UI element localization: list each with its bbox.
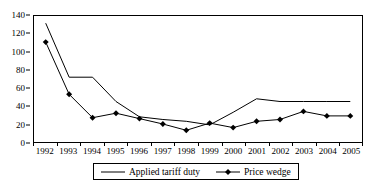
x-tick-label: 1997 [154,146,172,157]
y-tick-mark [26,106,30,107]
y-tick-mark [26,33,30,34]
data-point-marker [113,110,119,116]
y-tick-mark [26,69,30,70]
data-point-marker [183,127,189,133]
y-tick-label: 100 [12,47,26,56]
y-tick-label: 120 [12,29,26,38]
x-tick-mark [339,142,340,146]
x-tick-mark [80,142,81,146]
y-tick-mark [26,15,30,16]
x-tick-label: 2003 [295,146,313,157]
x-tick-mark [151,142,152,146]
x-tick-mark [362,142,363,146]
x-tick-mark [198,142,199,146]
y-tick-label: 140 [12,11,26,20]
y-tick-mark [26,143,30,144]
y-tick-label: 80 [16,65,25,74]
data-point-marker [230,125,236,131]
x-tick-label: 2004 [319,146,337,157]
x-tick-mark [174,142,175,146]
x-tick-label: 2002 [272,146,290,157]
data-point-marker [160,121,166,127]
y-tick-mark [26,124,30,125]
x-tick-label: 1992 [36,146,54,157]
data-point-marker [136,116,142,122]
y-tick-label: 0 [21,139,26,148]
y-tick-mark [26,51,30,52]
y-tick-label: 60 [16,84,25,93]
legend-label: Price wedge [244,167,291,177]
x-tick-label: 2005 [342,146,360,157]
x-tick-label: 1993 [59,146,77,157]
x-tick-label: 2001 [248,146,266,157]
x-tick-label: 1994 [83,146,101,157]
legend-line-icon [101,167,125,177]
y-tick-label: 20 [16,120,25,129]
x-tick-mark [57,142,58,146]
data-point-marker [207,120,213,126]
line-chart-figure: 020406080100120140 199219931994199519961… [0,0,372,185]
x-tick-label: 1995 [107,146,125,157]
x-tick-mark [245,142,246,146]
data-point-marker [254,118,260,124]
legend-label: Applied tariff duty [129,167,200,177]
x-axis: 1992199319941995199619971998199920002001… [33,146,363,160]
data-point-marker [324,113,330,119]
x-tick-mark [127,142,128,146]
x-tick-label: 1996 [130,146,148,157]
x-tick-mark [292,142,293,146]
y-tick-mark [26,88,30,89]
data-point-marker [43,39,49,45]
x-tick-label: 1998 [177,146,195,157]
x-tick-mark [104,142,105,146]
y-tick-label: 40 [16,102,25,111]
legend-line-diamond-icon [216,167,240,177]
x-tick-label: 2000 [224,146,242,157]
plot-area [33,15,363,143]
x-tick-label: 1999 [201,146,219,157]
data-point-marker [300,108,306,114]
chart-canvas [34,16,362,142]
data-point-marker [277,117,283,123]
legend-entry: Price wedge [216,167,291,177]
data-point-marker [347,113,353,119]
legend-entry: Applied tariff duty [101,167,200,177]
x-tick-mark [222,142,223,146]
x-tick-mark [316,142,317,146]
x-tick-mark [33,142,34,146]
series-price-wedge [43,39,354,133]
y-axis: 020406080100120140 [0,15,30,143]
x-tick-mark [269,142,270,146]
chart-legend: Applied tariff dutyPrice wedge [93,163,299,180]
